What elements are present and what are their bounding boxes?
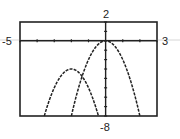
graph-plot bbox=[0, 0, 180, 139]
curves bbox=[44, 41, 140, 116]
xmax-label: 3 bbox=[162, 36, 168, 47]
xmin-label: -5 bbox=[2, 36, 12, 47]
ymin-label: -8 bbox=[100, 122, 110, 133]
parabola-curve-2 bbox=[44, 69, 98, 116]
ymax-label: 2 bbox=[103, 9, 109, 20]
